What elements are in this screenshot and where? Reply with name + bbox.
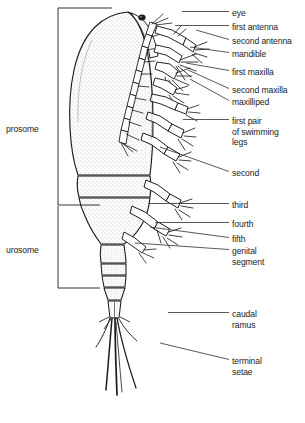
label-line: first pair bbox=[232, 116, 279, 127]
terminal-setae bbox=[96, 318, 137, 395]
maxilliped bbox=[150, 94, 188, 114]
label-first-antenna: first antenna bbox=[232, 22, 278, 33]
label-second-maxilla: second maxilla bbox=[232, 85, 287, 96]
label-line: genital bbox=[232, 246, 264, 257]
label-line: caudal bbox=[232, 309, 257, 320]
leader-line-maxilliped bbox=[190, 79, 229, 101]
label-eye: eye bbox=[232, 8, 246, 19]
leader-line-second bbox=[160, 147, 229, 172]
label-terminal-setae: terminalsetae bbox=[232, 356, 262, 377]
label-line: second maxilla bbox=[232, 85, 287, 96]
leader-line-terminal-setae bbox=[160, 343, 229, 360]
label-genital-segment: genitalsegment bbox=[232, 246, 264, 267]
label-second: second bbox=[232, 168, 259, 179]
label-line: second antenna bbox=[232, 36, 292, 47]
cephalosome bbox=[70, 12, 153, 175]
label-line: maxilliped bbox=[232, 97, 269, 108]
label-line: legs bbox=[232, 137, 279, 148]
urosome-segment-c bbox=[104, 288, 125, 300]
label-line: ramus bbox=[232, 320, 257, 331]
eye-highlight bbox=[140, 16, 142, 18]
label-line: second bbox=[232, 168, 259, 179]
mandible bbox=[154, 45, 182, 63]
label-line: first maxilla bbox=[232, 67, 274, 78]
label-caudal-ramus: caudalramus bbox=[232, 309, 257, 330]
bracket-label-urosome: urosome bbox=[6, 245, 39, 255]
label-first-maxilla: first maxilla bbox=[232, 67, 274, 78]
leader-line-genital-segment bbox=[135, 243, 229, 250]
label-line: third bbox=[232, 200, 248, 211]
copepod-anatomy-figure: prosomeurosome eyefirst antennasecond an… bbox=[0, 0, 305, 423]
label-line: mandible bbox=[232, 49, 266, 60]
label-third: third bbox=[232, 200, 248, 211]
second-maxilla bbox=[153, 78, 177, 95]
label-first-pair-swimming-legs: first pairof swimminglegs bbox=[232, 116, 279, 148]
label-maxilliped: maxilliped bbox=[232, 97, 269, 108]
label-line: segment bbox=[232, 257, 264, 268]
label-line: terminal bbox=[232, 356, 262, 367]
urosome-segment-a bbox=[101, 264, 126, 275]
label-line: fifth bbox=[232, 234, 245, 245]
label-line: setae bbox=[232, 367, 262, 378]
label-line: eye bbox=[232, 8, 246, 19]
label-second-antenna: second antenna bbox=[232, 36, 292, 47]
leader-line-second-maxilla bbox=[188, 70, 229, 89]
leader-line-second-antenna bbox=[196, 30, 229, 40]
label-line: fourth bbox=[232, 219, 253, 230]
label-fourth: fourth bbox=[232, 219, 253, 230]
label-fifth: fifth bbox=[232, 234, 245, 245]
genital-segment bbox=[100, 245, 126, 263]
eye bbox=[138, 15, 145, 21]
label-mandible: mandible bbox=[232, 49, 266, 60]
bracket-label-prosome: prosome bbox=[6, 124, 39, 134]
label-line: of swimming bbox=[232, 127, 279, 138]
thorax-segment-1 bbox=[77, 176, 150, 197]
first-maxilla bbox=[155, 62, 178, 79]
urosome-segment-b bbox=[102, 276, 126, 287]
label-line: first antenna bbox=[232, 22, 278, 33]
